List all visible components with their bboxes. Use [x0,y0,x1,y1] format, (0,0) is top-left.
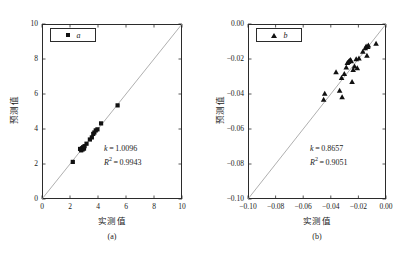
x-tick-label: 6 [112,202,140,211]
x-tick-label: 2 [56,202,84,211]
identity-reference-line-a [42,24,182,199]
data-point [99,121,103,125]
legend-b: b [256,28,302,42]
data-point [321,97,327,102]
x-tick-label: 4 [84,202,112,211]
figure-container: 0246810 0246810 a k = 1.0096 R2 = 0.9943… [0,0,404,262]
data-point [95,127,99,131]
panel-a: 0246810 0246810 a k = 1.0096 R2 = 0.9943… [0,0,202,262]
data-point [333,69,339,74]
data-points-b [321,41,379,102]
data-point [339,94,345,99]
data-point [342,71,348,76]
data-point [337,88,343,93]
data-point [322,91,328,96]
data-point [343,65,349,70]
annotation-b-k: k = 0.8657 [310,143,348,155]
legend-a: a [50,28,96,42]
legend-label-a: a [77,31,81,40]
x-tick-label: −0.04 [317,202,345,211]
annotation-b-r2: R2 = 0.9051 [310,155,348,168]
y-tick-label: 2 [26,159,38,168]
y-tick-label: 8 [26,54,38,63]
annotation-a-r2: R2 = 0.9943 [104,155,142,168]
y-axis-label-a: 预测值 [7,87,19,133]
x-tick-label: 0.00 [372,202,400,211]
x-tick-label: −0.10 [234,202,262,211]
x-tick-label: 8 [140,202,168,211]
x-axis-label-b: 实测值 [248,214,386,226]
x-tick-label: −0.08 [262,202,290,211]
data-point [84,142,88,146]
data-point [116,103,120,107]
y-tick-label: 10 [26,19,38,28]
y-tick-label: −0.02 [220,54,244,63]
triangle-marker-icon [271,33,277,38]
x-axis-label-a: 实测值 [42,214,182,226]
annotation-a: k = 1.0096 R2 = 0.9943 [104,143,142,168]
y-tick-label: 0.00 [220,19,244,28]
y-axis-label-b: 预测值 [213,87,225,133]
panel-caption-b: (b) [248,232,386,241]
square-marker-icon [66,33,70,37]
data-point [373,41,379,46]
annotation-b: k = 0.8657 R2 = 0.9051 [310,143,348,168]
x-tick-label: 10 [168,202,196,211]
data-point [71,160,75,164]
panel-b: −0.10−0.08−0.06−0.04−0.020.00 −0.10−0.08… [202,0,404,262]
legend-label-b: b [284,31,288,40]
x-tick-label: 0 [28,202,56,211]
panel-caption-a: (a) [42,232,182,241]
x-tick-label: −0.02 [344,202,372,211]
data-point [349,79,355,84]
annotation-a-k: k = 1.0096 [104,143,142,155]
y-tick-label: 6 [26,89,38,98]
y-tick-label: −0.08 [220,159,244,168]
y-tick-label: 4 [26,124,38,133]
x-tick-label: −0.06 [289,202,317,211]
